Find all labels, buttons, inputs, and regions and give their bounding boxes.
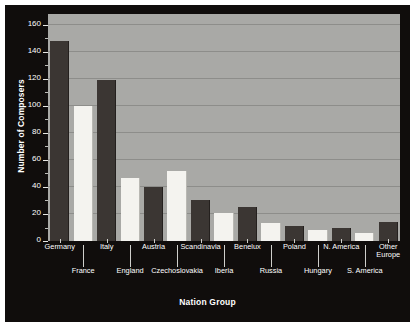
x-axis-label-other: OtherEurope <box>358 243 415 260</box>
x-axis-title: Nation Group <box>5 297 410 307</box>
bar-russia[interactable] <box>261 223 280 241</box>
y-axis-tick-label: 100 <box>28 100 41 109</box>
bar-slot <box>71 14 94 241</box>
bar-slot <box>283 14 306 241</box>
y-axis-tick-label: 80 <box>32 127 41 136</box>
bar-slot <box>236 14 259 241</box>
bar-germany[interactable] <box>50 41 69 241</box>
y-axis-tick-label: 20 <box>32 208 41 217</box>
bar-slot <box>48 14 71 241</box>
bar-slot <box>95 14 118 241</box>
y-axis-tick-label: 140 <box>28 46 41 55</box>
bar-czechoslovakia[interactable] <box>167 171 186 241</box>
bar-slot <box>259 14 282 241</box>
x-axis-category-labels: GermanyFranceItalyEnglandAustriaCzechosl… <box>48 241 400 295</box>
plot-area <box>48 14 400 241</box>
bar-hungary[interactable] <box>308 230 327 241</box>
bar-france[interactable] <box>74 106 93 241</box>
bar-scandinavia[interactable] <box>191 200 210 241</box>
y-axis-tick-label: 120 <box>28 73 41 82</box>
bar-iberia[interactable] <box>214 213 233 241</box>
chart-figure: Number of Composers 02040608010012014016… <box>0 0 415 327</box>
y-axis-tick-label: 160 <box>28 19 41 28</box>
bar-slot <box>212 14 235 241</box>
bar-slot <box>142 14 165 241</box>
bar-slot <box>165 14 188 241</box>
x-axis-label-text: S. America <box>335 267 395 275</box>
bar-s-america[interactable] <box>355 233 374 241</box>
bar-italy[interactable] <box>97 80 116 241</box>
y-axis-tick-label: 40 <box>32 181 41 190</box>
bar-benelux[interactable] <box>238 207 257 241</box>
bar-slot <box>377 14 400 241</box>
x-axis-label-s-america: S. America <box>335 267 395 275</box>
bar-austria[interactable] <box>144 187 163 241</box>
bar-slot <box>330 14 353 241</box>
y-axis-tick-label: 60 <box>32 154 41 163</box>
bar-england[interactable] <box>121 178 140 242</box>
y-axis: 020406080100120140160 <box>5 14 48 241</box>
bar-slot <box>118 14 141 241</box>
bar-series <box>48 14 400 241</box>
bar-slot <box>189 14 212 241</box>
x-axis-label-text-line2: Europe <box>358 251 415 259</box>
bar-slot <box>306 14 329 241</box>
chart-panel: Number of Composers 02040608010012014016… <box>5 5 410 322</box>
bar-slot <box>353 14 376 241</box>
